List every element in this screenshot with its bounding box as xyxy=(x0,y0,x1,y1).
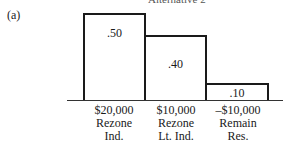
bar-rezone-lt-ind: .40 xyxy=(144,35,207,101)
bar-value-label: .10 xyxy=(207,86,267,101)
x-label-line2: Res. xyxy=(203,130,273,143)
x-label-line2: Ind. xyxy=(79,130,149,143)
bar-remain-res: .10 xyxy=(205,83,269,101)
x-label-remain-res: –$10,000 Remain Res. xyxy=(203,104,273,143)
bar-value-label: .50 xyxy=(85,26,144,41)
bar-rezone-ind: .50 xyxy=(83,13,146,101)
x-label-rezone-lt-ind: $10,000 Rezone Lt. Ind. xyxy=(141,104,211,143)
x-label-line2: Lt. Ind. xyxy=(141,130,211,143)
bar-value-label: .40 xyxy=(146,57,205,72)
bar-chart: .50 .40 .10 $20,000 Rezone Ind. $10,000 … xyxy=(0,0,287,149)
x-label-rezone-ind: $20,000 Rezone Ind. xyxy=(79,104,149,143)
x-axis-line xyxy=(67,100,283,101)
